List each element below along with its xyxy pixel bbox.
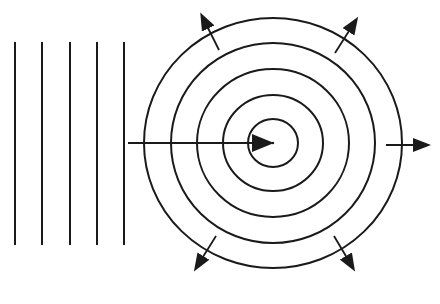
source-point [272, 142, 274, 144]
outgoing-arrow-upper-left-icon [202, 16, 219, 50]
wave-diagram: Plane wavefronts approaching concentric … [0, 0, 440, 304]
diagram-canvas [0, 0, 440, 304]
outgoing-arrow-lower-left-icon [196, 236, 216, 268]
plane-wavefronts [15, 42, 124, 245]
propagation-arrows [128, 16, 427, 268]
outgoing-arrow-upper-right-icon [335, 20, 356, 53]
